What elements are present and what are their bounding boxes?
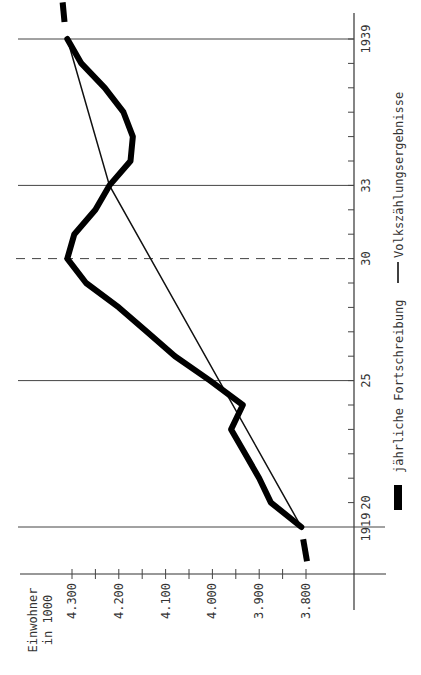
legend-thick-marker bbox=[394, 485, 402, 510]
extension-before bbox=[303, 539, 307, 561]
population-label: 4.100 bbox=[159, 583, 173, 619]
population-tick-labels: 3.8003.9004.0004.1004.2004.300 bbox=[65, 583, 313, 619]
legend-label-fortschreibung: jährliche Fortschreibung bbox=[392, 300, 406, 473]
year-label: 25 bbox=[359, 373, 373, 387]
year-tick-labels: 1919202530331939 bbox=[359, 25, 373, 542]
extension-after bbox=[63, 2, 65, 22]
population-label: 4.300 bbox=[65, 583, 79, 619]
population-label: 3.900 bbox=[252, 583, 266, 619]
y-axis-title: Einwohnerin 1000 bbox=[26, 587, 55, 652]
line-fortschreibung bbox=[67, 39, 301, 527]
year-label: 33 bbox=[359, 178, 373, 192]
axes bbox=[20, 13, 386, 610]
population-label: 4.000 bbox=[205, 583, 219, 619]
legend: jährliche FortschreibungVolkszählungserg… bbox=[392, 92, 406, 510]
year-label: 1939 bbox=[359, 25, 373, 54]
legend-label-volkszaehlung: Volkszählungsergebnisse bbox=[392, 92, 406, 258]
year-label: 30 bbox=[359, 251, 373, 265]
reference-lines bbox=[16, 39, 385, 527]
population-label: 4.200 bbox=[112, 583, 126, 619]
series-volkszaehlung bbox=[67, 39, 301, 527]
series-fortschreibung bbox=[63, 2, 307, 561]
year-label: 1919 bbox=[359, 513, 373, 542]
year-label: 20 bbox=[359, 495, 373, 509]
year-minor-ticks bbox=[348, 39, 354, 503]
population-chart: 1919202530331939 3.8003.9004.0004.1004.2… bbox=[0, 0, 421, 675]
y-axis-title-line2: in 1000 bbox=[41, 595, 55, 646]
line-volkszaehlung bbox=[67, 39, 301, 527]
population-label: 3.800 bbox=[299, 583, 313, 619]
y-axis-title-line1: Einwohner bbox=[26, 587, 40, 652]
